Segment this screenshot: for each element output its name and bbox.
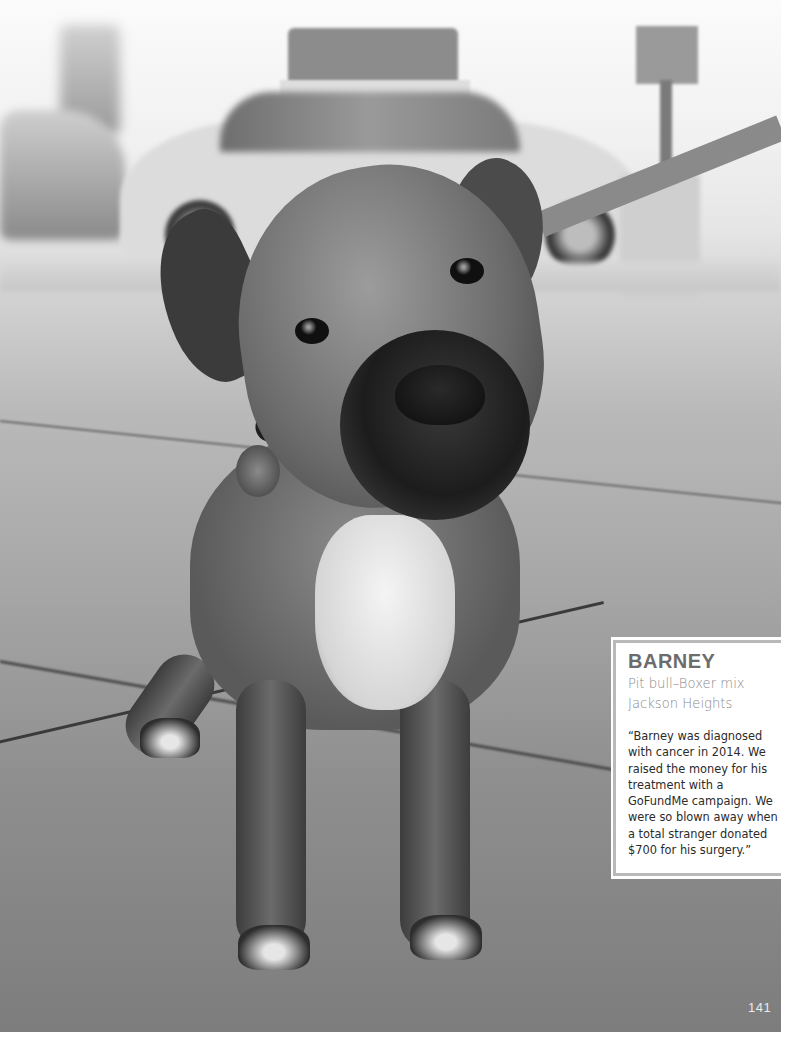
dog-location: Jackson Heights bbox=[628, 694, 778, 714]
dog-muzzle bbox=[340, 330, 530, 520]
dog-rear-paw bbox=[140, 718, 200, 758]
dog-nose bbox=[395, 365, 485, 425]
owner-quote: “Barney was diagnosed with cancer in 201… bbox=[628, 728, 784, 858]
dog-paw-right bbox=[410, 915, 482, 960]
street-sign bbox=[636, 26, 698, 84]
dog-eye-right bbox=[450, 258, 484, 284]
dog-breed: Pit bull–Boxer mix bbox=[628, 674, 778, 694]
dog-front-leg-right bbox=[400, 680, 470, 950]
dog-paw-left bbox=[238, 925, 310, 970]
taxi-roof-sign bbox=[288, 28, 458, 86]
dog-name: BARNEY bbox=[628, 650, 778, 672]
dog-eye-left bbox=[295, 318, 329, 344]
caption-card-content: BARNEY Pit bull–Boxer mix Jackson Height… bbox=[628, 650, 778, 858]
dog-front-leg-left bbox=[236, 680, 306, 950]
page-number: 141 bbox=[748, 1000, 771, 1015]
taxi-window bbox=[220, 92, 520, 152]
background-car-left bbox=[0, 110, 125, 240]
dog-chest bbox=[315, 515, 455, 710]
